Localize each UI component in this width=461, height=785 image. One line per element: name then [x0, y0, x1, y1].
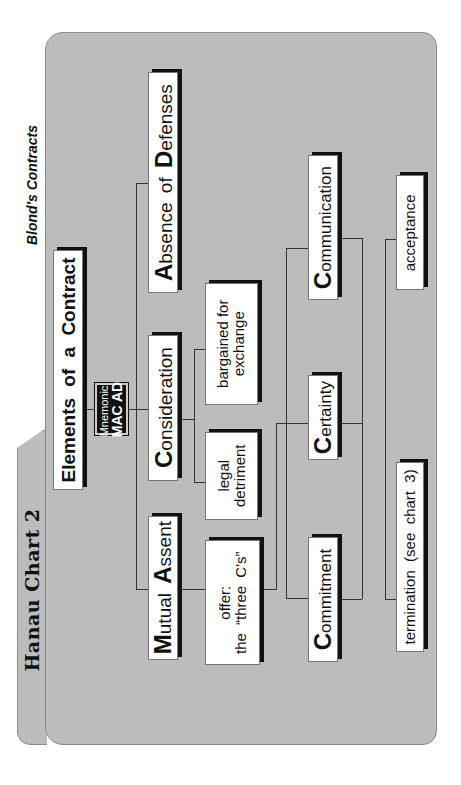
connector-cert-right [338, 423, 362, 424]
chart-label-text: Hanau Chart 2 [21, 508, 43, 671]
line2: the “three C's” [233, 551, 249, 654]
label-part: ertainty [316, 381, 335, 437]
connector-bargained [194, 349, 205, 350]
label-part: efenses [154, 84, 175, 151]
element-mutual-assent: Mutual Assent [148, 516, 178, 660]
label-part: utual [154, 584, 175, 634]
connector-legal [194, 482, 205, 483]
connector-commit-right [338, 599, 362, 600]
connector-offer-spine [276, 423, 277, 590]
source-label-text: Blond's Contracts [24, 125, 40, 245]
mnemonic-value: MAC AD [110, 381, 124, 436]
connector-certainty [286, 423, 308, 424]
connector-comm-spine [385, 239, 386, 599]
root-title-box: Elements of a Contract [53, 250, 83, 490]
connector-acceptance [385, 239, 396, 240]
label-part: bsence of [154, 168, 175, 264]
connector-communication [286, 248, 308, 249]
mnemonic-box: Mnemonic: MAC AD [95, 383, 128, 435]
mutual-assent-offer: offer: the “three C's” [205, 540, 260, 665]
connector-absence [136, 183, 148, 184]
initial-c: C [149, 451, 176, 468]
chart-label: Hanau Chart 2 [18, 440, 46, 740]
connector-commitment [286, 598, 308, 599]
label-part: ssent [154, 521, 175, 566]
termination-label: termination (see chart 3) [402, 469, 418, 644]
initial-c: C [309, 272, 336, 289]
label-part: ommitment [316, 549, 335, 633]
line1: offer: [217, 551, 233, 654]
line1: bargained for [216, 300, 232, 388]
offer-certainty: Certainty [308, 375, 338, 460]
line1: legal [216, 445, 232, 508]
connector-cs-join [276, 423, 286, 424]
consideration-legal-detriment: legal detriment [205, 432, 258, 520]
label-part: onsideration [154, 348, 175, 452]
initial-a: A [149, 264, 176, 281]
element-absence-of-defenses: Absence of Defenses [148, 72, 178, 293]
element-consideration: Consideration [148, 335, 178, 481]
offer-commitment: Commitment [308, 537, 338, 662]
acceptance-label: acceptance [402, 194, 418, 271]
connector-mutual-offer [178, 589, 205, 590]
connector-consideration [136, 409, 148, 410]
offer-communication: Communication [308, 155, 338, 300]
communication-acceptance: acceptance [396, 175, 424, 290]
line2: detriment [232, 445, 248, 508]
connector-spine-l1 [136, 183, 137, 589]
label-part: ommunication [316, 166, 335, 272]
initial-c: C [309, 633, 336, 650]
consideration-bargained-for-exchange: bargained for exchange [205, 283, 258, 405]
line2: exchange [232, 300, 248, 388]
initial-a: A [149, 567, 176, 584]
root-title: Elements of a Contract [58, 258, 78, 483]
connector-comm-right [338, 238, 362, 239]
connector-termination [385, 599, 396, 600]
connector-mutual [136, 589, 148, 590]
communication-termination: termination (see chart 3) [396, 462, 424, 652]
connector-cons-spine [194, 349, 195, 482]
initial-m: M [149, 635, 176, 655]
initial-d: D [149, 151, 176, 168]
connector-cs-right-spine [362, 238, 363, 599]
source-label: Blond's Contracts [22, 110, 42, 260]
connector-cons-out [178, 419, 194, 420]
initial-c: C [309, 437, 336, 454]
connector-offer-out [260, 589, 276, 590]
